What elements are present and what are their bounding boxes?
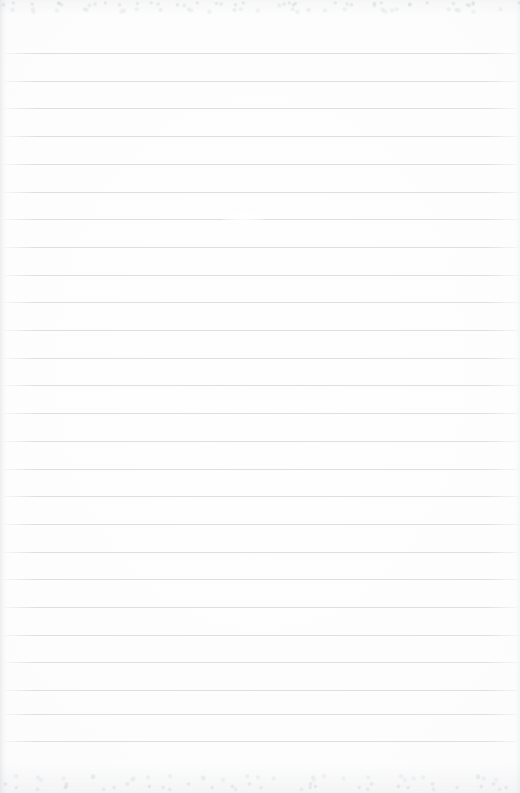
rule-line [3,302,518,303]
rule-line [3,81,518,82]
ruled-line-group [0,0,520,793]
rule-line [3,358,518,359]
rule-line [3,385,518,386]
rule-line [3,192,518,193]
rule-line [3,219,518,220]
rule-line [3,714,518,715]
rule-line [3,441,518,442]
rule-line [3,741,518,742]
notebook-paper-sheet [0,0,520,793]
rule-line [3,330,518,331]
rule-line [3,662,518,663]
rule-line [3,469,518,470]
rule-line [3,275,518,276]
rule-line [3,53,518,54]
rule-line [3,413,518,414]
rule-line [3,108,518,109]
rule-line [3,524,518,525]
rule-line [3,607,518,608]
rule-line [3,635,518,636]
rule-line [3,579,518,580]
rule-line [3,690,518,691]
rule-line [3,552,518,553]
rule-line [3,496,518,497]
rule-line [3,247,518,248]
rule-line [3,136,518,137]
rule-line [3,164,518,165]
